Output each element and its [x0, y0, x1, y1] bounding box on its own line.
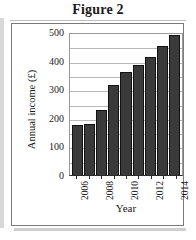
bar [145, 57, 156, 175]
x-tick-label: 2014 [180, 181, 190, 200]
y-tick-label: 300 [49, 85, 64, 95]
x-tick-mark [89, 176, 90, 179]
x-tick-mark [76, 176, 77, 179]
y-tick-label: 100 [49, 142, 64, 152]
bar [169, 35, 180, 175]
y-tick-label: 500 [49, 28, 64, 38]
bar [72, 125, 83, 175]
plot-area [69, 33, 183, 176]
figure-box: Annual income (£) 0100200300400500 20062… [11, 23, 184, 226]
y-axis: Annual income (£) 0100200300400500 [12, 24, 69, 177]
bar [157, 46, 168, 175]
bar [96, 110, 107, 175]
x-tick-mark [176, 176, 177, 179]
bar [108, 85, 119, 175]
bar-series [70, 34, 182, 175]
figure-title: Figure 2 [0, 2, 196, 18]
y-tick-label: 400 [49, 57, 64, 67]
y-tick-label: 0 [59, 171, 64, 181]
x-tick-mark [138, 176, 139, 179]
bar [120, 72, 131, 175]
x-tick-mark [101, 176, 102, 179]
x-tick-mark [151, 176, 152, 179]
x-tick-mark [126, 176, 127, 179]
page-edge-artifact [0, 18, 4, 228]
title-divider [10, 20, 186, 21]
y-axis-title: Annual income (£) [26, 50, 37, 170]
x-tick-mark [114, 176, 115, 179]
x-axis-title: Year [69, 202, 183, 214]
page-shadow-artifact [14, 228, 186, 231]
x-tick-mark [163, 176, 164, 179]
bar [84, 124, 95, 175]
bar [133, 65, 144, 175]
y-tick-label: 200 [49, 114, 64, 124]
